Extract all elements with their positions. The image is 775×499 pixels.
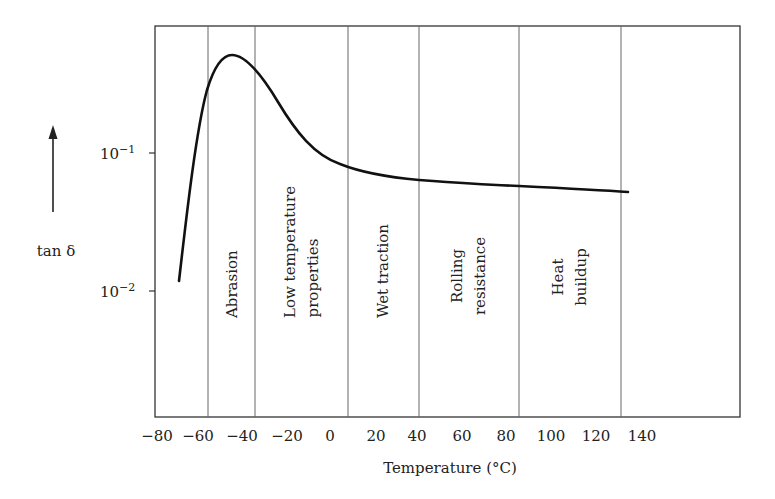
y-tick-label: 10−1 [100, 143, 135, 163]
x-tick-label: −80 [141, 427, 173, 445]
tan-delta-chart: tan δ 10−1 10−2 −80 −60 −40 −20 0 20 40 … [0, 0, 775, 499]
up-arrow-icon [49, 125, 58, 212]
y-tick-label: 10−2 [100, 281, 135, 301]
x-tick-label: 80 [496, 427, 515, 445]
region-dividers [208, 26, 621, 417]
x-tick-label: 20 [366, 427, 385, 445]
region-label-heat: Heat [549, 259, 567, 296]
region-label-low-temperature-2: properties [304, 239, 322, 318]
region-labels: Abrasion Low temperature properties Wet … [223, 186, 590, 319]
region-label-low-temperature: Low temperature [281, 186, 299, 318]
plot-frame [155, 26, 740, 417]
x-tick-label: 60 [452, 427, 471, 445]
y-axis-title: tan δ [37, 242, 75, 260]
tan-delta-curve [179, 55, 628, 281]
region-label-buildup: buildup [572, 248, 590, 306]
region-label-abrasion: Abrasion [223, 250, 241, 319]
x-tick-label: −20 [271, 427, 303, 445]
x-tick-label: 0 [325, 427, 335, 445]
region-label-rolling: Rolling [448, 249, 466, 303]
x-tick-label: −40 [226, 427, 258, 445]
x-tick-label: 40 [407, 427, 426, 445]
x-tick-label: 140 [628, 427, 657, 445]
y-axis-ticks: 10−1 10−2 [100, 143, 155, 301]
x-axis-tick-labels: −80 −60 −40 −20 0 20 40 60 80 100 120 14… [141, 427, 656, 445]
x-tick-label: −60 [182, 427, 214, 445]
region-label-wet-traction: Wet traction [374, 224, 392, 318]
x-tick-label: 120 [582, 427, 611, 445]
x-tick-label: 100 [537, 427, 566, 445]
region-label-resistance: resistance [471, 237, 489, 315]
x-axis-title: Temperature (°C) [383, 459, 517, 477]
